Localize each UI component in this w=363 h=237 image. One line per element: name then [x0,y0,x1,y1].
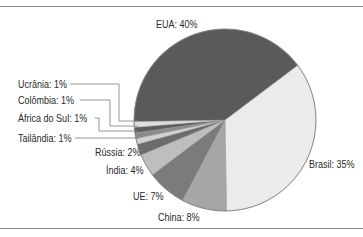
label-tailandia: Tailândia: 1% [18,132,72,144]
leader-line-colômbia [80,100,138,126]
label-russia: Rússia: 2% [95,146,141,158]
leader-line-áfrica-do-sul [95,118,138,131]
label-eua: EUA: 40% [156,18,198,30]
label-india: Índia: 4% [106,164,144,176]
leader-lines [70,84,139,138]
label-colombia: Colômbia: 1% [18,94,74,106]
label-china: China: 8% [158,211,200,223]
label-africa-do-sul: África do Sul: 1% [18,112,87,124]
label-ue: UE: 7% [133,190,164,202]
pie-slices [134,29,316,211]
label-brasil: Brasil: 35% [309,158,355,170]
label-ucrania: Ucrânia: 1% [18,78,67,90]
pie-chart: EUA: 40% Brasil: 35% China: 8% UE: 7% Ín… [0,0,363,237]
